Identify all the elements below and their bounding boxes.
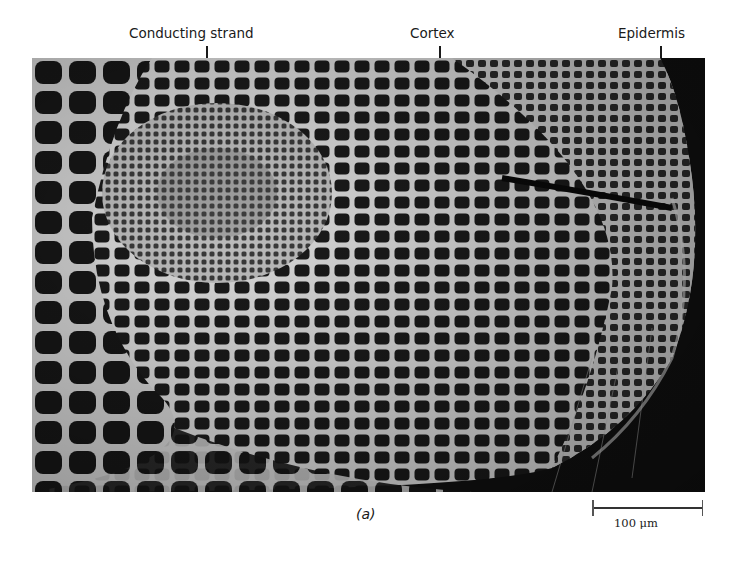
- micrograph-image: [32, 58, 705, 492]
- scale-bar-label: 100 μm: [614, 516, 658, 530]
- scale-bar: [592, 500, 703, 516]
- scale-bar-tick-left: [592, 500, 594, 516]
- label-epidermis: Epidermis: [618, 25, 685, 41]
- panel-caption: (a): [356, 506, 376, 522]
- sem-micrograph: [32, 58, 705, 492]
- label-cortex: Cortex: [410, 25, 455, 41]
- scale-bar-tick-right: [702, 500, 704, 516]
- scale-bar-line: [592, 507, 703, 509]
- label-conducting-strand: Conducting strand: [129, 25, 254, 41]
